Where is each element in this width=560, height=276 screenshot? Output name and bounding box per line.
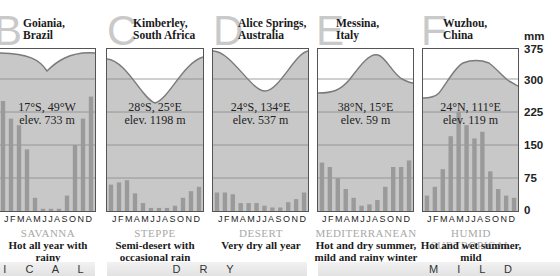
precipitation-bar bbox=[302, 193, 306, 211]
month-label: S bbox=[276, 214, 282, 224]
month-label: O bbox=[387, 214, 394, 224]
chart-frame: 24°N, 111°Eelev. 119 m bbox=[422, 48, 519, 212]
month-label: O bbox=[283, 214, 290, 224]
precipitation-bar bbox=[367, 204, 371, 211]
month-label: M bbox=[17, 214, 25, 224]
month-label: D bbox=[193, 214, 200, 224]
precipitation-bar bbox=[165, 208, 169, 211]
precipitation-bar bbox=[254, 203, 258, 211]
month-label: O bbox=[492, 214, 499, 224]
month-label: D bbox=[508, 214, 515, 224]
month-label: S bbox=[170, 214, 176, 224]
month-label: F bbox=[10, 214, 16, 224]
month-label: A bbox=[162, 214, 168, 224]
month-label: F bbox=[224, 214, 230, 224]
precipitation-bar bbox=[270, 207, 274, 211]
month-label: A bbox=[477, 214, 483, 224]
chart-frame: 28°S, 25°Eelev. 1198 m bbox=[106, 48, 204, 212]
month-label: N bbox=[185, 214, 192, 224]
month-label: J bbox=[48, 214, 53, 224]
precipitation-bar bbox=[117, 182, 121, 211]
precipitation-bar bbox=[109, 185, 113, 211]
axis-tick: 150 bbox=[524, 139, 543, 151]
month-labels: JFMAMJJASOND bbox=[427, 214, 515, 224]
precipitation-bar bbox=[262, 206, 266, 211]
month-labels: JFMAMJJASOND bbox=[4, 214, 92, 224]
precipitation-bar bbox=[81, 119, 85, 211]
precipitation-bar bbox=[57, 209, 61, 211]
climate-description: Very dry all year bbox=[211, 239, 311, 251]
place-name: Messina,Italy bbox=[336, 17, 379, 41]
precipitation-bar bbox=[141, 203, 145, 211]
month-label: A bbox=[240, 214, 246, 224]
precipitation-bar bbox=[33, 198, 37, 211]
month-label: J bbox=[322, 214, 327, 224]
climate-plot bbox=[107, 49, 203, 211]
climate-type: SAVANNA bbox=[0, 227, 98, 239]
precipitation-bar bbox=[181, 198, 185, 211]
chart-frame: 17°S, 49°Welev. 733 m bbox=[0, 48, 96, 212]
month-label: M bbox=[247, 214, 255, 224]
month-label: S bbox=[380, 214, 386, 224]
month-label: J bbox=[465, 214, 470, 224]
month-label: M bbox=[440, 214, 448, 224]
precipitation-bar bbox=[433, 187, 437, 211]
month-label: A bbox=[449, 214, 455, 224]
climate-description: Semi-desert withoccasional rain bbox=[105, 239, 205, 263]
month-label: O bbox=[177, 214, 184, 224]
precipitation-bar bbox=[17, 125, 21, 211]
month-label: O bbox=[69, 214, 76, 224]
precipitation-bar bbox=[73, 145, 77, 211]
precipitation-bar bbox=[328, 167, 332, 211]
panel-letter: B bbox=[0, 10, 22, 52]
precipitation-bar bbox=[133, 193, 137, 211]
precipitation-bar bbox=[441, 169, 445, 211]
temperature-area bbox=[107, 57, 203, 211]
temperature-area bbox=[423, 61, 518, 211]
precipitation-bar bbox=[49, 209, 53, 211]
precipitation-bar bbox=[25, 149, 29, 211]
precipitation-bar bbox=[399, 167, 403, 211]
month-label: J bbox=[471, 214, 476, 224]
precipitation-bar bbox=[239, 203, 243, 211]
month-label: J bbox=[427, 214, 432, 224]
axis-tick: 300 bbox=[524, 74, 543, 86]
axis-tick: 0 bbox=[524, 204, 530, 216]
precipitation-bar bbox=[278, 207, 282, 211]
month-label: F bbox=[118, 214, 124, 224]
month-labels: JFMAMJJASOND bbox=[112, 214, 200, 224]
precipitation-bar bbox=[246, 203, 250, 211]
precipitation-bar bbox=[320, 163, 324, 211]
month-label: J bbox=[156, 214, 161, 224]
precipitation-bar bbox=[391, 167, 395, 211]
chart-frame: 24°S, 134°Eelev. 537 m bbox=[212, 48, 309, 212]
month-label: M bbox=[33, 214, 41, 224]
month-label: A bbox=[134, 214, 140, 224]
precipitation-bar bbox=[231, 194, 235, 211]
month-label: J bbox=[218, 214, 223, 224]
precipitation-bar bbox=[383, 187, 387, 211]
precipitation-bar bbox=[157, 208, 161, 211]
month-label: M bbox=[141, 214, 149, 224]
month-label: N bbox=[291, 214, 298, 224]
precipitation-bar bbox=[512, 198, 516, 211]
place-name: Alice Springs,Australia bbox=[238, 17, 306, 41]
month-label: A bbox=[268, 214, 274, 224]
temperature-area bbox=[318, 55, 413, 211]
precipitation-bar bbox=[425, 196, 429, 211]
month-label: J bbox=[256, 214, 261, 224]
precipitation-bar bbox=[344, 189, 348, 211]
precipitation-bar bbox=[41, 209, 45, 211]
climate-type: STEPPE bbox=[105, 227, 205, 239]
month-label: D bbox=[299, 214, 306, 224]
precipitation-bar bbox=[488, 171, 492, 211]
coords: 28°S, 25°Eelev. 1198 m bbox=[107, 101, 203, 127]
temperature-area bbox=[213, 51, 308, 211]
month-label: J bbox=[4, 214, 9, 224]
precipitation-bar bbox=[464, 125, 468, 211]
coords: 24°S, 134°Eelev. 537 m bbox=[213, 101, 308, 127]
place-name: Wuzhou,China bbox=[443, 17, 487, 41]
month-label: N bbox=[395, 214, 402, 224]
climate-description: Hot and dry summer,mild and rainy winter bbox=[311, 239, 421, 263]
precipitation-bar bbox=[173, 206, 177, 211]
